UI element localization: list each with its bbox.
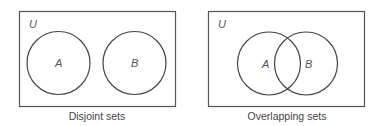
- set-b-label: B: [305, 58, 312, 70]
- set-a-label: A: [261, 58, 269, 70]
- venn-diagrams: U A B Disjoint sets U A B Overlapping se…: [0, 0, 383, 126]
- caption: Disjoint sets: [69, 110, 126, 122]
- universe-box: [209, 12, 365, 107]
- caption: Overlapping sets: [248, 110, 327, 122]
- universe-label: U: [29, 18, 37, 30]
- universe-box: [20, 12, 176, 107]
- overlapping-diagram: U A B Overlapping sets: [209, 12, 365, 123]
- set-b-label: B: [131, 57, 138, 69]
- set-a-label: A: [54, 57, 62, 69]
- disjoint-diagram: U A B Disjoint sets: [20, 12, 176, 123]
- universe-label: U: [218, 18, 226, 30]
